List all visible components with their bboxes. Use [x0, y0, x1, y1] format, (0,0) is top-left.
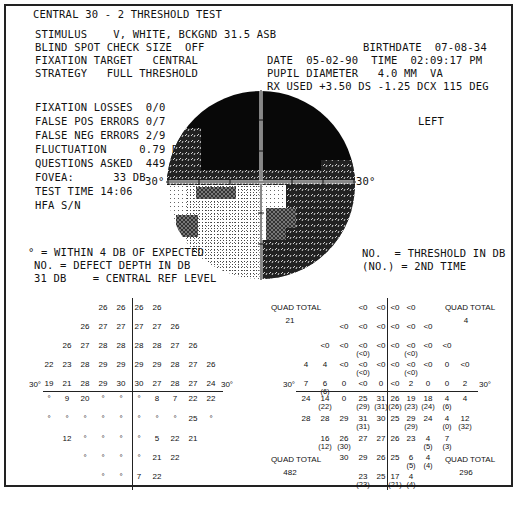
defect-cell: ° [137, 414, 140, 423]
defect-cell: 27 [135, 322, 144, 331]
defect-cell: 26 [135, 303, 144, 312]
legend-central-ref: 31 DB = CENTRAL REF LEVEL [34, 272, 217, 284]
threshold-cell: 31(31) [374, 394, 387, 411]
false-pos-errors: FALSE POS ERRORS 0/7 [35, 115, 165, 127]
threshold-cell: <0 [390, 360, 399, 369]
blind-spot-line: BLIND SPOT CHECK SIZE OFF [35, 41, 205, 53]
threshold-value: <0 [423, 322, 432, 331]
threshold-cell: <0 [376, 341, 385, 350]
threshold-value: 0 [379, 379, 383, 388]
threshold-value: <0 [376, 303, 385, 312]
strategy-line: STRATEGY FULL THRESHOLD [35, 67, 198, 79]
threshold-cell: <0 [390, 379, 399, 388]
defect-cell: ° [119, 434, 122, 443]
threshold-grid-horizontal-axis [296, 391, 478, 392]
threshold-value: 30 [377, 414, 386, 423]
threshold-value: <0 [358, 379, 367, 388]
threshold-cell: 26(26) [388, 394, 401, 411]
defect-cell: 22 [171, 434, 180, 443]
threshold-value: 26 [377, 453, 386, 462]
threshold-value: 28 [321, 414, 330, 423]
threshold-value: <0 [406, 322, 415, 331]
threshold-cell: 6(5) [406, 453, 415, 470]
threshold-cell: <0 [376, 303, 385, 312]
defect-cell: ° [101, 414, 104, 423]
threshold-second-value: (3) [442, 443, 451, 451]
threshold-cell: <0 [390, 322, 399, 331]
defect-cell: ° [47, 414, 50, 423]
threshold-second-value: (12) [318, 443, 331, 451]
fixation-target-line: FIXATION TARGET CENTRAL [35, 54, 198, 66]
threshold-cell: <0 [320, 341, 329, 350]
defect-cell: 5 [155, 434, 159, 443]
defect-cell: 26 [63, 341, 72, 350]
defect-cell: ° [65, 414, 68, 423]
defect-cell: ° [119, 472, 122, 481]
threshold-value: 25 [391, 453, 400, 462]
threshold-second-value: (4) [423, 462, 432, 470]
threshold-cell: 31(31) [356, 414, 369, 431]
threshold-value: 25 [391, 414, 400, 423]
defect-cell: 27 [99, 322, 108, 331]
defect-cell: 29 [99, 360, 108, 369]
fovea: FOVEA: 33 DB [35, 171, 146, 183]
defect-cell: 29 [99, 379, 108, 388]
threshold-cell: <0 [376, 322, 385, 331]
quad-total-ul-label: QUAD TOTAL [271, 303, 321, 312]
threshold-value: 2 [409, 379, 413, 388]
threshold-cell: 2 [463, 379, 467, 388]
threshold-cell: <0 [390, 341, 399, 350]
defect-cell: ° [101, 434, 104, 443]
threshold-value: 27 [359, 434, 368, 443]
threshold-cell: 28 [321, 414, 330, 423]
threshold-cell: 17(21) [388, 472, 401, 489]
defect-cell: 22 [207, 394, 216, 403]
quad-total-ul-value: 21 [286, 316, 295, 325]
defect-cell: 26 [189, 341, 198, 350]
threshold-second-value: (5) [423, 443, 432, 451]
defect-cell: ° [137, 394, 140, 403]
threshold-second-value: (6) [442, 403, 451, 411]
threshold-cell: <0 [406, 303, 415, 312]
defect-cell: 25 [189, 414, 198, 423]
threshold-cell: 4 [323, 360, 327, 369]
threshold-second-value: (29) [404, 423, 417, 431]
threshold-cell: <0 [406, 322, 415, 331]
threshold-cell: <0 [390, 303, 399, 312]
threshold-second-value: (32) [458, 423, 471, 431]
threshold-cell: 25 [377, 472, 386, 481]
threshold-value: 29 [340, 414, 349, 423]
defect-cell: ° [173, 414, 176, 423]
defect-cell: 28 [135, 341, 144, 350]
defect-cell: 22 [153, 472, 162, 481]
threshold-cell: 26 [391, 434, 400, 443]
defect-cell: 21 [189, 434, 198, 443]
threshold-value: <0 [376, 341, 385, 350]
threshold-value: 7 [304, 379, 308, 388]
threshold-cell: 27 [377, 434, 386, 443]
threshold-value: 4 [323, 360, 327, 369]
defect-cell: ° [155, 414, 158, 423]
threshold-cell: <0 [423, 360, 432, 369]
defect-cell: ° [101, 394, 104, 403]
threshold-value: 27 [377, 434, 386, 443]
quad-total-lr-value: 296 [459, 468, 472, 477]
defect-grid-horizontal-axis [43, 391, 223, 392]
threshold-cell: <0 [358, 379, 367, 388]
legend-within-expected: ° = WITHIN 4 DB OF EXPECTED [28, 246, 204, 258]
threshold-cell: <0 [358, 303, 367, 312]
defect-cell: 7 [137, 472, 141, 481]
threshold-cell: 4(0) [442, 414, 451, 431]
threshold-value: 24 [424, 414, 433, 423]
threshold-cell: 4(5) [423, 434, 432, 451]
threshold-value: 4 [304, 360, 308, 369]
threshold-value: <0 [423, 341, 432, 350]
threshold-cell: 0 [445, 379, 449, 388]
threshold-second-value: (31) [356, 423, 369, 431]
threshold-cell: 4(6) [442, 394, 451, 411]
threshold-cell: 23(23) [356, 472, 369, 489]
defect-cell: 28 [171, 360, 180, 369]
threshold-value: <0 [406, 303, 415, 312]
threshold-cell: 4 [463, 394, 467, 403]
threshold-second-value: (30) [337, 443, 350, 451]
